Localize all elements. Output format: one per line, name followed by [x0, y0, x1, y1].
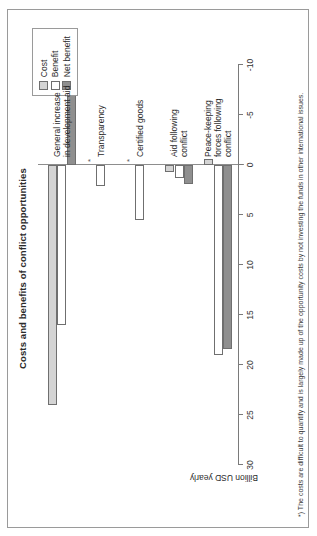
- category-label: Transparency: [96, 37, 106, 157]
- chart-page: Costs and benefits of conflict opportuni…: [0, 0, 317, 536]
- axis-tick: [238, 414, 243, 415]
- axis-tick: [238, 364, 243, 365]
- legend-label: Cost: [39, 60, 49, 77]
- bar-benefit: [175, 165, 184, 178]
- axis-tick-label: 30: [245, 460, 255, 469]
- axis-tick-label: 15: [245, 310, 255, 319]
- axis-tick-label: 5: [245, 213, 255, 218]
- bar-net: [223, 165, 232, 349]
- cost-asterisk-marker: *: [125, 159, 134, 162]
- bar-net: [184, 165, 193, 184]
- value-axis: 302520151050-5-10: [238, 65, 239, 465]
- category-label: Certified goods: [135, 37, 145, 157]
- bar-cost: [165, 165, 174, 172]
- bar-benefit: [96, 165, 105, 186]
- axis-tick: [238, 164, 243, 165]
- axis-tick-label: 20: [245, 360, 255, 369]
- bar-benefit: [57, 165, 66, 325]
- axis-tick-label: -5: [245, 111, 255, 119]
- axis-tick-label: 25: [245, 410, 255, 419]
- rotated-figure: Costs and benefits of conflict opportuni…: [0, 0, 317, 536]
- legend-item-cost[interactable]: Cost: [39, 36, 49, 90]
- axis-tick: [238, 314, 243, 315]
- chart-frame: Costs and benefits of conflict opportuni…: [7, 9, 309, 528]
- axis-tick: [238, 114, 243, 115]
- bar-cost: [48, 165, 57, 405]
- bar-benefit: [214, 165, 223, 355]
- axis-tick: [238, 464, 243, 465]
- legend-swatch-cost-icon: [39, 81, 48, 90]
- axis-tick: [238, 64, 243, 65]
- bar-cost: [204, 159, 213, 165]
- chart-title: Costs and benefits of conflict opportuni…: [17, 10, 28, 527]
- axis-tick: [238, 264, 243, 265]
- axis-tick-label: 10: [245, 260, 255, 269]
- category-label: Aid following conflict: [169, 37, 189, 157]
- chart-footnote: *) The costs are difficult to quantify a…: [297, 93, 304, 517]
- axis-tick-label: 0: [245, 163, 255, 168]
- value-axis-title: Billion USD yearly: [190, 473, 258, 483]
- axis-tick: [238, 214, 243, 215]
- cost-asterisk-marker: *: [86, 159, 95, 162]
- category-label: Peace-keeping forces following conflict: [203, 37, 233, 157]
- axis-tick-label: -10: [245, 59, 255, 71]
- bar-benefit: [135, 165, 144, 220]
- category-label: General increase in development aid: [52, 37, 72, 157]
